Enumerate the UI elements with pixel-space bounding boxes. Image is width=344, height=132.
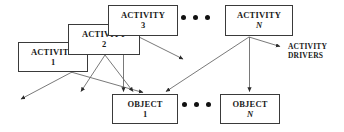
node-activity-n[interactable]: ACTIVITY N xyxy=(225,5,293,36)
ellipsis-dot xyxy=(194,102,199,107)
node-object-1-index: 1 xyxy=(143,110,147,119)
activity-drivers-label-line2: DRIVERS xyxy=(288,51,327,60)
node-object-1[interactable]: OBJECT 1 xyxy=(112,94,178,124)
edge-activityN-to-drivers xyxy=(249,37,280,47)
edge-activity1-to-object1 xyxy=(71,72,143,93)
ellipsis-dot xyxy=(206,102,211,107)
object-ellipsis-icon xyxy=(182,102,211,107)
node-object-1-title: OBJECT xyxy=(127,100,162,109)
node-activity-n-title: ACTIVITY xyxy=(237,11,281,20)
node-activity-3-index: 3 xyxy=(141,21,145,30)
node-activity-1-index: 1 xyxy=(51,58,55,67)
ellipsis-dot xyxy=(182,102,187,107)
activity-ellipsis-icon xyxy=(181,15,210,20)
activity-object-diagram: ACTIVITY 1 ACTIVITY 2 ACTIVITY 3 ACTIVIT… xyxy=(0,0,344,132)
node-activity-2-index: 2 xyxy=(102,40,106,49)
node-activity-3[interactable]: ACTIVITY 3 xyxy=(108,5,178,36)
ellipsis-dot xyxy=(181,15,186,20)
node-object-n[interactable]: OBJECT N xyxy=(220,94,280,124)
node-object-n-title: OBJECT xyxy=(232,100,267,109)
ellipsis-dot xyxy=(193,15,198,20)
node-activity-n-index: N xyxy=(256,21,262,30)
node-object-n-index: N xyxy=(247,110,253,119)
activity-drivers-label-line1: ACTIVITY xyxy=(288,42,327,51)
activity-drivers-label: ACTIVITY DRIVERS xyxy=(288,42,327,61)
edge-activity1-to-left xyxy=(21,72,72,99)
node-activity-3-title: ACTIVITY xyxy=(121,11,165,20)
edge-activityN-to-object1 xyxy=(166,37,249,92)
ellipsis-dot xyxy=(205,15,210,20)
edge-activity3-to-right xyxy=(137,36,183,59)
